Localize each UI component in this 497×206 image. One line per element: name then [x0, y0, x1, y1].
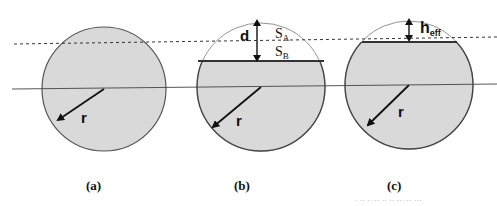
- radius-label: r: [81, 109, 87, 126]
- radius-label: r: [398, 103, 404, 120]
- radius-label: r: [236, 112, 242, 129]
- panel-b: d SA SB r (b): [197, 19, 325, 193]
- panel-a: r (a): [42, 27, 166, 193]
- caption-c: (c): [387, 178, 401, 193]
- footer-faint-text: · ·· ·· ·· ·· ·· ··· ·· ···: [355, 196, 422, 205]
- caption-b: (b): [234, 178, 250, 193]
- height-eff-label: heff: [420, 19, 442, 38]
- depth-arrow-top-icon: [253, 19, 261, 26]
- figure-diagram: r (a) d SA SB r (b) heff r (c) · ·· ·· ·…: [0, 0, 497, 206]
- caption-a: (a): [86, 178, 101, 193]
- depth-label: d: [240, 27, 249, 44]
- panel-c: heff r (c): [345, 18, 473, 193]
